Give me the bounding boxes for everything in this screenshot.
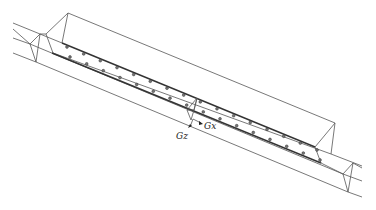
- perforation-dot: [252, 131, 255, 134]
- perforation-dot: [116, 66, 119, 69]
- perforation-dot: [69, 56, 72, 59]
- perforation-dot: [66, 46, 69, 49]
- perforation-dot: [185, 104, 188, 107]
- perforation-dot: [169, 97, 172, 100]
- perforation-dot: [232, 114, 235, 117]
- perforation-dot: [85, 63, 88, 66]
- perforation-dot: [282, 135, 285, 138]
- perforation-dot: [182, 94, 185, 97]
- perforation-dot: [149, 80, 152, 83]
- perforation-dot: [269, 138, 272, 141]
- perforation-dot: [299, 142, 302, 145]
- perforation-dot: [219, 117, 222, 120]
- pipe-lines: [30, 34, 348, 192]
- perforation-dots: [66, 46, 322, 162]
- perforation-dot: [166, 87, 169, 90]
- diagram-canvas: Gx Gz: [0, 0, 376, 210]
- gz-label: Gz: [176, 131, 188, 141]
- perforation-dot: [102, 69, 105, 72]
- perforation-dot: [235, 124, 238, 127]
- right-pipe-stub: [321, 154, 362, 197]
- perforation-dot: [119, 76, 122, 79]
- perforated-plate: [52, 43, 321, 163]
- perforation-dot: [266, 128, 269, 131]
- perforation-dot: [82, 53, 85, 56]
- perforation-dot: [199, 101, 202, 104]
- perforation-dot: [285, 145, 288, 148]
- coordinate-axes: Gx Gz: [176, 119, 216, 141]
- perforation-dot: [202, 111, 205, 114]
- perforation-dot: [249, 121, 252, 124]
- perforation-dot: [216, 107, 219, 110]
- left-pipe-stub: [13, 23, 46, 62]
- housing-outline: [46, 13, 335, 154]
- perforation-dot: [302, 152, 305, 155]
- perforation-dot: [135, 83, 138, 86]
- perforation-dot: [152, 90, 155, 93]
- perforation-dot: [319, 159, 322, 162]
- gx-label: Gx: [204, 121, 216, 131]
- perforation-dot: [316, 149, 319, 152]
- perforation-dot: [99, 59, 102, 62]
- perforation-dot: [132, 73, 135, 76]
